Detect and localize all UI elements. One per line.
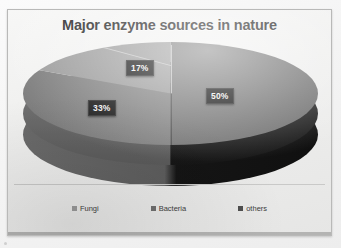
scan-speck: [4, 242, 7, 245]
data-label-others: 50%: [206, 88, 234, 104]
chart-title: Major enzyme sources in nature: [8, 17, 331, 33]
legend-swatch-icon-bacteria: [151, 206, 156, 211]
data-label-fungi: 17%: [126, 60, 154, 76]
legend-item-fungi[interactable]: Fungi: [72, 204, 99, 213]
data-label-bacteria: 33%: [88, 100, 116, 116]
legend-label-fungi: Fungi: [80, 204, 99, 213]
legend-item-others[interactable]: others: [238, 204, 267, 213]
pie-body: [23, 42, 318, 165]
slice-divider-top: [171, 45, 172, 93]
frame-bottom-edge: [8, 232, 331, 235]
legend-separator: [14, 184, 325, 185]
legend-label-bacteria: Bacteria: [159, 204, 187, 213]
chart-frame: Major enzyme sources in nature: [7, 9, 332, 236]
legend-label-others: others: [246, 204, 267, 213]
pie-top-face: [23, 42, 318, 145]
legend-swatch-icon-fungi: [72, 206, 77, 211]
legend-swatch-icon-others: [238, 206, 243, 211]
legend-item-bacteria[interactable]: Bacteria: [151, 204, 187, 213]
slice-divider-front: [171, 94, 172, 146]
photographed-slide-page: Major enzyme sources in nature: [0, 0, 341, 248]
chart-legend: Fungi Bacteria others: [8, 198, 331, 218]
pie-chart: 17% 50% 33%: [18, 38, 323, 188]
